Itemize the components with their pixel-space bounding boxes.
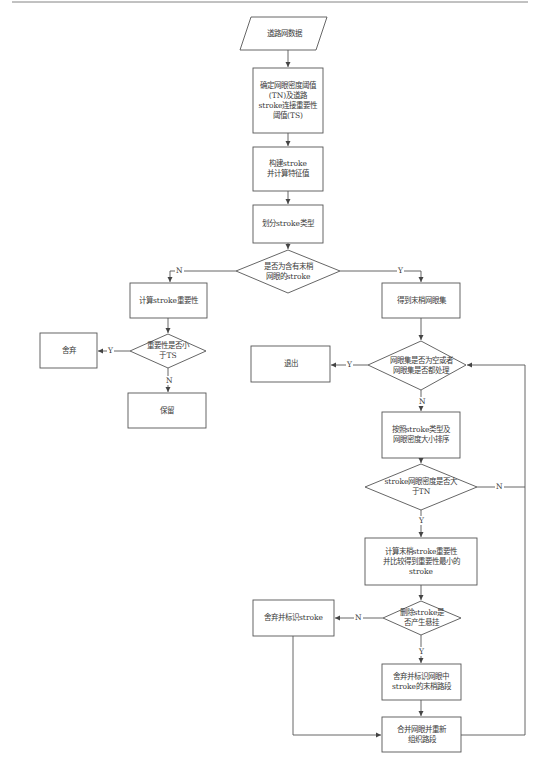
node-thresholds: 确定网眼密度阈值 (TN)及道路 stroke连接重要性 阈值(TS) [253,68,323,133]
node-importance-lt-ts: 重要性是否小 于TS [136,334,200,368]
node-density-gt-tn: stroke网眼密度是否大 于TN [375,464,467,510]
node-calc-importance: 计算stroke重要性 [130,283,207,318]
edge-label-has-tail-yes: Y [397,266,404,275]
edge-label-mesh-set-no: N [418,397,427,406]
edge-label-mesh-set-yes: Y [346,360,353,369]
node-mesh-set-done: 网眼集是否为空或者 网眼集是否都处理 [378,341,464,390]
edge-label-has-tail-no: N [175,266,184,275]
edge-label-density-no: N [495,482,504,491]
edge-label-importance-yes: Y [107,346,114,355]
node-has-tail-mesh: 是否为含有末梢 网眼的stroke [248,250,328,293]
node-build-stroke: 构建stroke 并计算特征值 [253,147,323,191]
node-merge-reorganize: 合并网眼并重新 组织路段 [382,717,461,752]
node-road-data: 道路网数据 [246,17,322,50]
node-delete-dangling: 删除stroke是 否产生悬挂 [390,601,454,635]
node-classify-stroke: 划分stroke类型 [253,205,323,243]
edge-label-dangling-yes: Y [418,647,425,656]
node-keep: 保留 [128,393,206,428]
node-discard-mark-stroke: 舍弃并标识stroke [253,600,334,636]
node-discard-mark-tail: 舍弃并标识网眼中 stroke的末梢路段 [382,664,461,700]
node-discard: 舍弃 [40,333,97,368]
edge-label-dangling-no: N [354,613,363,622]
edge-label-importance-no: N [165,376,174,385]
node-exit: 退出 [251,346,330,382]
node-get-tail-meshes: 得到末梢网眼集 [382,283,460,318]
edge-label-density-yes: Y [418,516,425,525]
node-sort: 按照stroke类型及 网眼密度大小排序 [382,412,460,458]
node-calc-tail-importance: 计算末梢stroke重要性 并比较得到重要性最小的 stroke [365,538,477,585]
